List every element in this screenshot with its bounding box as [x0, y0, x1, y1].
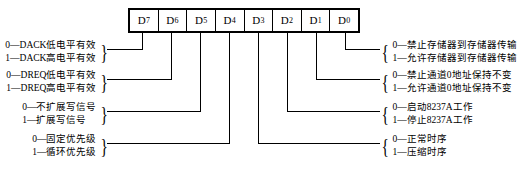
bit-label-d2: D [281, 15, 289, 26]
leader-hline-d3 [258, 143, 380, 144]
leader-vline-d1 [316, 33, 317, 79]
annotation-priority-mode: 0—固定优先级 1—循环优先级 } [0, 133, 110, 159]
bit-cell-d2: D2 [273, 10, 302, 31]
annotation-channel0-address-hold-lines: 0—禁止通道0地址保持不变 1—允许通道0地址保持不变 [393, 69, 512, 95]
bit-label-d3: D [252, 15, 260, 26]
leader-hline-d5 [107, 111, 201, 112]
leader-hline-d6 [107, 79, 172, 80]
bit-label-d1: D [309, 15, 317, 26]
brace-right-controller-enable: { [382, 104, 389, 124]
annotation-extended-write-line0: 0—不扩展写信号 [22, 101, 96, 114]
annotation-controller-enable-line0: 0—启动8237A工作 [393, 101, 473, 114]
bit-subscript-d0: 0 [346, 17, 350, 25]
leader-hline-d1 [316, 79, 380, 80]
annotation-channel0-address-hold-line1: 1—允许通道0地址保持不变 [393, 82, 512, 95]
bit-cell-d3: D3 [245, 10, 274, 31]
bit-subscript-d4: 4 [232, 17, 236, 25]
annotation-dreq-polarity-line1: 1—DREQ高电平有效 [6, 82, 96, 95]
annotation-memory-to-memory-line1: 1—允许存储器到存储器传输 [393, 52, 517, 65]
leader-vline-d3 [258, 33, 259, 143]
annotation-priority-mode-lines: 0—固定优先级 1—循环优先级 [32, 133, 96, 159]
annotation-dack-polarity-line1: 1—DACK高电平有效 [5, 52, 96, 65]
annotation-controller-enable-lines: 0—启动8237A工作 1—停止8237A工作 [393, 101, 473, 127]
annotation-dreq-polarity: 0—DREQ低电平有效 1—DREQ高电平有效 } [0, 69, 110, 95]
brace-left-dack: } [101, 42, 108, 62]
annotation-dack-polarity-lines: 0—DACK低电平有效 1—DACK高电平有效 [5, 39, 96, 65]
bit-label-d4: D [224, 15, 232, 26]
bit-cell-d1: D1 [302, 10, 331, 31]
brace-right-memory-to-memory: { [382, 42, 389, 62]
annotation-controller-enable: { 0—启动8237A工作 1—停止8237A工作 [380, 101, 473, 127]
register-box: D7 D6 D5 D4 D3 D2 D1 D0 [128, 8, 360, 33]
brace-right-channel0-address-hold: { [382, 72, 389, 92]
annotation-dreq-polarity-lines: 0—DREQ低电平有效 1—DREQ高电平有效 [6, 69, 96, 95]
bit-cell-d5: D5 [187, 10, 216, 31]
annotation-priority-mode-line1: 1—循环优先级 [32, 146, 96, 159]
brace-left-extended-write: } [101, 104, 108, 124]
annotation-dack-polarity: 0—DACK低电平有效 1—DACK高电平有效 } [0, 39, 110, 65]
brace-right-timing-mode: { [382, 136, 389, 156]
annotation-dreq-polarity-line0: 0—DREQ低电平有效 [6, 69, 96, 82]
brace-left-dreq: } [101, 72, 108, 92]
annotation-timing-mode: { 0—正常时序 1—压缩时序 [380, 133, 447, 159]
annotation-timing-mode-lines: 0—正常时序 1—压缩时序 [393, 133, 447, 159]
bit-cell-d7: D7 [130, 10, 159, 31]
bit-cell-d0: D0 [330, 10, 358, 31]
annotation-channel0-address-hold-line0: 0—禁止通道0地址保持不变 [393, 69, 512, 82]
leader-hline-d4 [107, 143, 230, 144]
bit-subscript-d1: 1 [318, 17, 322, 25]
bit-label-d7: D [138, 15, 146, 26]
leader-hline-d2 [287, 111, 380, 112]
annotation-memory-to-memory-line0: 0—禁止存储器到存储器传输 [393, 39, 517, 52]
annotation-timing-mode-line0: 0—正常时序 [393, 133, 447, 146]
annotation-priority-mode-line0: 0—固定优先级 [32, 133, 96, 146]
bit-label-d5: D [195, 15, 203, 26]
annotation-dack-polarity-line0: 0—DACK低电平有效 [5, 39, 96, 52]
annotation-memory-to-memory-lines: 0—禁止存储器到存储器传输 1—允许存储器到存储器传输 [393, 39, 517, 65]
bit-label-d0: D [338, 15, 346, 26]
annotation-timing-mode-line1: 1—压缩时序 [393, 146, 447, 159]
annotation-extended-write-line1: 1—扩展写信号 [22, 114, 96, 127]
annotation-extended-write-lines: 0—不扩展写信号 1—扩展写信号 [22, 101, 96, 127]
bit-subscript-d2: 2 [289, 17, 293, 25]
annotation-controller-enable-line1: 1—停止8237A工作 [393, 114, 473, 127]
leader-vline-d7 [142, 33, 143, 49]
leader-vline-d0 [345, 33, 346, 49]
leader-vline-d6 [171, 33, 172, 79]
leader-vline-d4 [229, 33, 230, 143]
leader-hline-d7 [107, 49, 143, 50]
annotation-extended-write: 0—不扩展写信号 1—扩展写信号 } [0, 101, 110, 127]
bit-label-d6: D [166, 15, 174, 26]
bit-subscript-d6: 6 [175, 17, 179, 25]
bit-cell-d4: D4 [216, 10, 245, 31]
annotation-channel0-address-hold: { 0—禁止通道0地址保持不变 1—允许通道0地址保持不变 [380, 69, 512, 95]
annotation-memory-to-memory: { 0—禁止存储器到存储器传输 1—允许存储器到存储器传输 [380, 39, 517, 65]
brace-left-priority: } [101, 136, 108, 156]
leader-hline-d0 [345, 49, 380, 50]
bit-subscript-d3: 3 [260, 17, 264, 25]
leader-vline-d5 [200, 33, 201, 111]
bit-subscript-d5: 5 [203, 17, 207, 25]
bit-subscript-d7: 7 [146, 17, 150, 25]
bit-cell-d6: D6 [159, 10, 188, 31]
leader-vline-d2 [287, 33, 288, 111]
